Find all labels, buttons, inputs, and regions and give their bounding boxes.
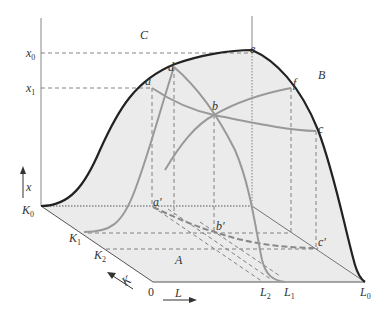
region-label-b: B [318,68,326,82]
point-label-c-prime: c′ [318,235,326,249]
region-label-a: A [174,253,183,267]
point-label-e: e [250,42,256,56]
axis-label-k: K [118,272,134,289]
axis-label-l: L [174,286,182,300]
point-label-c: c [318,122,324,136]
l-arrow-icon [189,297,197,303]
tick-l2: L2 [259,285,271,301]
k-arrow-icon [107,272,116,279]
x-arrow-icon [20,166,26,174]
tick-l0: L0 [359,285,371,301]
origin-label: 0 [148,285,154,299]
point-label-a: a [145,74,151,88]
point-label-b: b [212,99,218,113]
production-surface-diagram: C B A x0 x1 x K0 K1 K2 K 0 L L2 L1 L0 a … [0,0,391,318]
tick-k2: K2 [93,248,106,264]
point-label-a-prime: a′ [153,195,162,209]
tick-k1: K1 [68,231,81,247]
tick-x1: x1 [25,81,35,97]
region-label-c: C [140,28,149,42]
point-label-f: f [293,76,298,90]
tick-k0: K0 [21,203,34,219]
axis-label-x: x [25,180,32,194]
tick-x0: x0 [25,46,35,62]
tick-l1: L1 [283,285,295,301]
point-label-b-prime: b′ [216,219,225,233]
point-label-d: d [168,60,175,74]
